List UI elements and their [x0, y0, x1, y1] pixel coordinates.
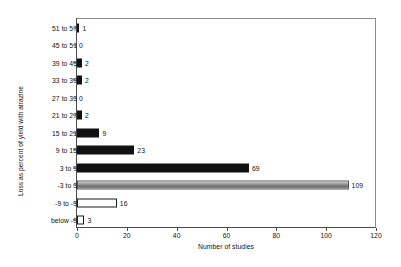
bar-value-label: 2 — [85, 77, 89, 84]
bar-value-label: 0 — [79, 94, 83, 101]
bar-row: 15 to 219 — [0, 123, 401, 142]
bar-value-label: 1 — [82, 24, 86, 31]
bar-chart: Loss as percent of yield with atrazine 5… — [0, 0, 401, 267]
y-axis-tick — [73, 80, 76, 81]
y-axis-tick — [73, 115, 76, 116]
bar-row: -9 to -316 — [0, 193, 401, 212]
bar-value-label: 2 — [85, 112, 89, 119]
y-axis-tick — [73, 202, 76, 203]
bar — [77, 23, 79, 32]
bar-row: 39 to 452 — [0, 53, 401, 72]
bar — [77, 163, 249, 172]
x-axis-tick — [326, 228, 327, 231]
x-axis-tick — [127, 228, 128, 231]
y-axis-tick — [73, 167, 76, 168]
bar — [77, 181, 349, 190]
y-axis-tick — [73, 185, 76, 186]
bar-row: -3 to 3109 — [0, 176, 401, 195]
y-axis-tick — [73, 132, 76, 133]
bar-value-label: 23 — [137, 147, 145, 154]
bar-row: 3 to 969 — [0, 158, 401, 177]
x-axis-title: Number of studies — [76, 243, 376, 250]
x-axis-tick-label: 120 — [370, 232, 382, 239]
x-axis-tick — [276, 228, 277, 231]
bar-row: 51 to 571 — [0, 18, 401, 37]
y-axis-tick — [73, 62, 76, 63]
bar-value-label: 2 — [85, 59, 89, 66]
y-axis-tick — [73, 45, 76, 46]
x-axis-tick — [227, 228, 228, 231]
x-axis-tick-label: 20 — [123, 232, 131, 239]
y-axis-tick — [73, 97, 76, 98]
x-axis-tick — [177, 228, 178, 231]
y-axis-tick — [73, 220, 76, 221]
bar — [77, 198, 117, 207]
bar-value-label: 0 — [79, 42, 83, 49]
bar-value-label: 3 — [87, 217, 91, 224]
bar — [77, 58, 82, 67]
x-axis-tick-label: 80 — [272, 232, 280, 239]
x-axis-tick-label: 40 — [173, 232, 181, 239]
bar-value-label: 9 — [102, 129, 106, 136]
bar-row: 21 to 272 — [0, 106, 401, 125]
x-axis-tick-label: 0 — [75, 232, 79, 239]
y-axis-tick — [73, 150, 76, 151]
bar-rows-container: 51 to 57145 to 51039 to 45233 to 39227 t… — [0, 18, 401, 228]
x-axis-tick-label: 60 — [223, 232, 231, 239]
bar-row: 45 to 510 — [0, 36, 401, 55]
bar — [77, 128, 99, 137]
x-axis-tick — [77, 228, 78, 231]
bar-row: 9 to 1523 — [0, 141, 401, 160]
bar-row: 27 to 330 — [0, 88, 401, 107]
y-axis-tick — [73, 27, 76, 28]
x-axis: Number of studies 020406080100120 — [0, 228, 401, 267]
bar — [77, 111, 82, 120]
bar-value-label: 109 — [352, 182, 364, 189]
bar-row: 33 to 392 — [0, 71, 401, 90]
bar-value-label: 69 — [252, 164, 260, 171]
bar — [77, 146, 134, 155]
bar — [77, 76, 82, 85]
bar-value-label: 16 — [120, 199, 128, 206]
x-axis-tick — [376, 228, 377, 231]
x-axis-tick-label: 100 — [320, 232, 332, 239]
bar-row: below -93 — [0, 211, 401, 230]
bar — [77, 216, 84, 225]
